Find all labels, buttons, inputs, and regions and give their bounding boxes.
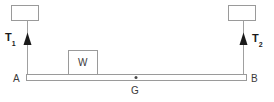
point-a-label: A <box>13 74 20 84</box>
left-tension-arrow-icon <box>24 33 32 46</box>
tension-left-symbol: T <box>5 31 12 43</box>
center-of-gravity-dot <box>135 76 138 79</box>
left-support-box <box>12 6 39 21</box>
point-b-label: B <box>251 74 258 84</box>
right-support-box <box>229 6 256 21</box>
tension-right-subscript: 2 <box>259 41 263 48</box>
physics-diagram: T1 T2 A B G W <box>0 0 274 102</box>
tension-left-label: T1 <box>5 32 16 45</box>
tension-right-label: T2 <box>252 33 263 46</box>
block-weight-label: W <box>78 58 87 68</box>
tension-right-symbol: T <box>252 32 259 44</box>
right-tension-arrow-icon <box>240 33 248 46</box>
tension-left-subscript: 1 <box>12 40 16 47</box>
center-of-gravity-label: G <box>131 86 139 96</box>
